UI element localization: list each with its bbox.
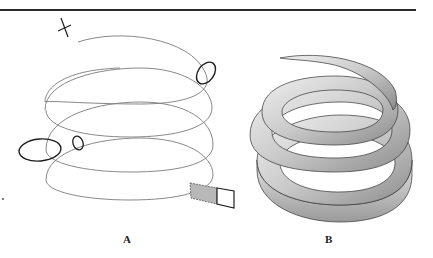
panel-b-label: B xyxy=(325,233,332,245)
profile-ellipse-left-small xyxy=(71,135,85,152)
start-cross-icon xyxy=(58,18,71,37)
profile-ellipse-left-large xyxy=(18,137,62,163)
figure-canvas xyxy=(0,0,433,258)
panel-a-helix xyxy=(45,36,213,200)
stray-mark xyxy=(2,198,4,200)
panel-b-swept-solid xyxy=(250,55,412,222)
profile-rectangle xyxy=(190,183,234,208)
panel-a-label: A xyxy=(123,233,131,245)
